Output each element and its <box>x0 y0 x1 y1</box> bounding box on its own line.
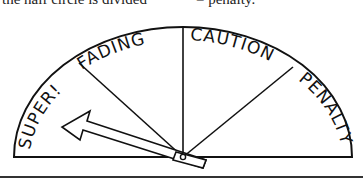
segment-label-fading-text: FADING <box>73 28 147 73</box>
pivot-icon <box>180 154 185 159</box>
needle-arrow-icon <box>62 111 206 168</box>
segment-label-fading: FADING <box>73 28 147 73</box>
divider-caution-penalty <box>183 67 293 157</box>
bottom-divider <box>0 176 363 178</box>
segment-label-caution: CAUTION <box>190 24 278 66</box>
segment-label-penalty-text: PENALTY <box>296 68 357 147</box>
segment-label-penalty: PENALTY <box>296 68 357 147</box>
performance-gauge: SUPER! FADING CAUTION PENALTY <box>0 0 363 181</box>
segment-label-caution-text: CAUTION <box>190 24 278 66</box>
